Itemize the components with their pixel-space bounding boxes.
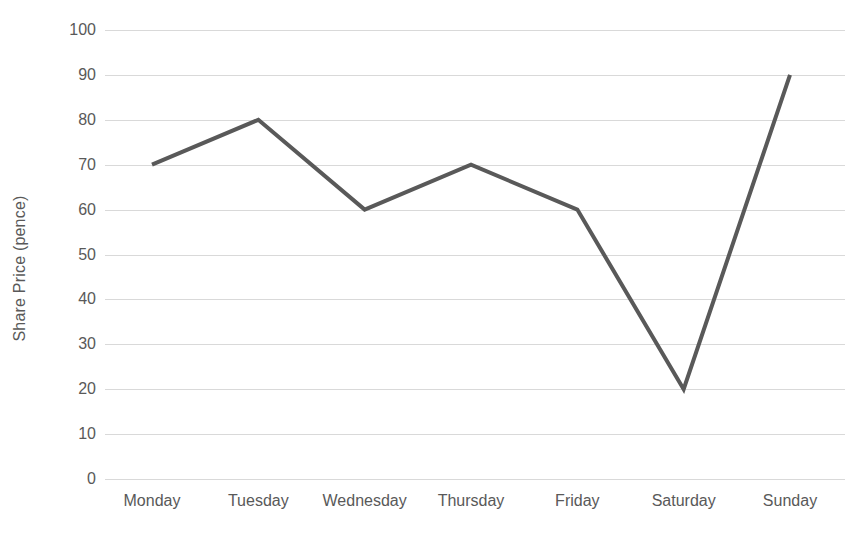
- x-tick-label-thursday: Thursday: [438, 492, 505, 510]
- x-tick-label-saturday: Saturday: [652, 492, 716, 510]
- x-tick-label-friday: Friday: [555, 492, 599, 510]
- y-tick-label-60: 60: [40, 201, 96, 219]
- y-tick-label-100: 100: [40, 21, 96, 39]
- x-tick-label-monday: Monday: [124, 492, 181, 510]
- x-tick-label-tuesday: Tuesday: [228, 492, 289, 510]
- y-axis-title: Share Price (pence): [0, 0, 40, 537]
- y-tick-label-70: 70: [40, 156, 96, 174]
- x-axis-tick-labels: MondayTuesdayWednesdayThursdayFridaySatu…: [105, 492, 845, 522]
- y-axis-tick-labels: 1009080706050403020100: [40, 0, 96, 537]
- series-line-share-price: [105, 30, 845, 479]
- series-polyline: [152, 75, 790, 389]
- gridline-0: [105, 479, 845, 480]
- plot-area: [105, 30, 845, 479]
- y-tick-label-10: 10: [40, 425, 96, 443]
- y-tick-label-0: 0: [40, 470, 96, 488]
- y-tick-label-80: 80: [40, 111, 96, 129]
- y-tick-label-20: 20: [40, 380, 96, 398]
- y-tick-label-30: 30: [40, 335, 96, 353]
- y-tick-label-90: 90: [40, 66, 96, 84]
- y-tick-label-40: 40: [40, 290, 96, 308]
- x-tick-label-sunday: Sunday: [763, 492, 817, 510]
- y-tick-label-50: 50: [40, 246, 96, 264]
- x-tick-label-wednesday: Wednesday: [323, 492, 407, 510]
- line-chart: Share Price (pence) 10090807060504030201…: [0, 0, 857, 537]
